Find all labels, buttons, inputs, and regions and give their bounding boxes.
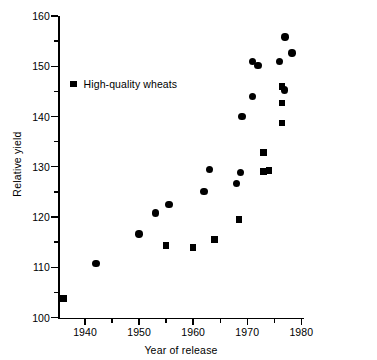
data-point-circle [152, 209, 159, 216]
data-point-circle [276, 58, 283, 65]
y-tick-major [51, 15, 58, 16]
data-point-circle [206, 166, 213, 173]
y-tick-minor [54, 241, 59, 242]
data-point-circle [281, 33, 288, 40]
y-tick-minor [54, 91, 59, 92]
data-point-circle [92, 260, 99, 267]
x-tick-major [138, 318, 139, 325]
scatter-plot: 100110120130140150160 194019501960197019… [0, 0, 377, 360]
data-point-square [236, 216, 243, 223]
y-tick-label: 160 [10, 11, 50, 22]
x-tick-label: 1950 [117, 327, 161, 338]
y-tick-major [51, 216, 58, 217]
x-axis-title: Year of release [58, 344, 304, 356]
legend: High-quality wheats [70, 78, 177, 90]
y-tick-minor [54, 40, 59, 41]
y-tick-major [51, 166, 58, 167]
x-tick-minor [165, 318, 166, 323]
data-point-circle [135, 230, 142, 237]
data-point-square [279, 120, 286, 127]
x-tick-label: 1940 [63, 327, 107, 338]
y-tick-major [51, 317, 58, 318]
x-tick-major [301, 318, 302, 325]
y-tick-label: 100 [10, 313, 50, 324]
y-tick-major [51, 66, 58, 67]
data-point-circle [249, 93, 256, 100]
data-point-circle [238, 113, 245, 120]
data-point-circle [165, 201, 172, 208]
x-axis-line [58, 318, 304, 320]
y-tick-minor [54, 292, 59, 293]
x-tick-minor [220, 318, 221, 323]
y-tick-label: 110 [10, 262, 50, 273]
legend-label: High-quality wheats [84, 78, 178, 90]
x-tick-minor [111, 318, 112, 323]
x-tick-major [84, 318, 85, 325]
y-tick-major [51, 267, 58, 268]
data-point-square [190, 244, 197, 251]
x-tick-major [192, 318, 193, 325]
x-tick-label: 1980 [279, 327, 323, 338]
x-tick-label: 1970 [225, 327, 269, 338]
legend-square-marker-icon [70, 81, 77, 88]
y-tick-label: 150 [10, 61, 50, 72]
y-tick-minor [54, 191, 59, 192]
data-point-circle [254, 62, 261, 69]
data-point-square [279, 100, 286, 107]
data-point-circle [200, 188, 207, 195]
data-point-circle [237, 169, 244, 176]
data-point-circle [288, 49, 295, 56]
data-point-square [211, 236, 218, 243]
y-axis-title: Relative yield [11, 109, 23, 219]
data-point-circle [233, 180, 240, 187]
x-tick-minor [274, 318, 275, 323]
data-point-square [163, 242, 170, 249]
x-tick-major [247, 318, 248, 325]
data-point-square [60, 295, 67, 302]
x-tick-label: 1960 [171, 327, 215, 338]
y-tick-major [51, 116, 58, 117]
data-point-square [260, 149, 267, 156]
y-axis-line [58, 16, 60, 318]
data-point-square [279, 83, 286, 90]
y-tick-minor [54, 141, 59, 142]
data-point-square [266, 167, 273, 174]
